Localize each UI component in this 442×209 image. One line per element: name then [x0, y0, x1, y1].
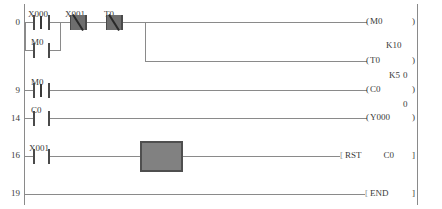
contact-bar-right: [48, 83, 50, 98]
rung9-wire-seg1: [25, 90, 33, 91]
step-number-9: 9: [2, 85, 20, 95]
rung0-wire-to-coil: [145, 22, 367, 23]
normally-closed-slash-icon: [107, 15, 122, 30]
contact-bar-right: [48, 111, 50, 126]
pulse-tick-icon: [40, 84, 42, 97]
contact-bar-right: [121, 15, 123, 30]
branch-vertical-right: [60, 22, 61, 50]
pulse-tick-icon: [40, 16, 42, 29]
coil-paren-open: (: [366, 112, 369, 122]
coil-y000-label: Y000: [370, 112, 390, 122]
contact-bar-right: [48, 43, 50, 58]
coil-m0-label: M0: [370, 16, 383, 26]
branch-vertical-left: [25, 22, 26, 50]
coil-paren-open: (: [366, 55, 369, 65]
instruction-rst-label: RST: [345, 150, 362, 160]
rung16-wire-seg2: [50, 156, 340, 157]
rung19-wire: [25, 194, 365, 195]
instruction-rst-operand: C0: [384, 150, 395, 160]
instruction-rst[interactable]: [RSTC0: [340, 150, 394, 161]
rung0-wire-seg3: [87, 22, 106, 23]
coil-y000[interactable]: (Y000: [366, 112, 390, 123]
rung9-wire-seg2: [50, 90, 367, 91]
t0-branch-wire: [145, 61, 367, 62]
contact-m0-rung9[interactable]: [33, 83, 50, 98]
step-number-14: 14: [2, 113, 20, 123]
contact-x001-rung16[interactable]: [33, 149, 50, 164]
counter-current-c0: 0: [403, 99, 408, 109]
rung14-wire-seg1: [25, 118, 33, 119]
contact-bar-left: [33, 15, 35, 30]
rung0-wire-seg4: [123, 22, 145, 23]
contact-bar-left: [33, 149, 35, 164]
coil-c0-paren-close: ): [412, 84, 415, 95]
contact-t0[interactable]: [106, 15, 123, 30]
instruction-end[interactable]: [END: [365, 188, 389, 199]
timer-current-t0: 0: [403, 70, 408, 80]
t0-branch-vertical: [145, 22, 146, 61]
coil-paren-open: (: [366, 84, 369, 94]
coil-t0-label: T0: [370, 55, 380, 65]
rung16-wire-seg1: [25, 156, 33, 157]
contact-bar-left: [33, 111, 35, 126]
branch-wire-seg2: [50, 50, 61, 51]
coil-m0[interactable]: (M0: [366, 16, 383, 27]
selection-cursor-block[interactable]: [140, 141, 183, 172]
rung14-wire-seg2: [50, 118, 367, 119]
instruction-end-bracket-close: ]: [412, 188, 415, 199]
step-number-19: 19: [2, 188, 20, 198]
contact-bar-right: [48, 149, 50, 164]
instruction-end-label: END: [370, 188, 389, 198]
branch-wire-seg1: [25, 50, 33, 51]
step-number-0: 0: [2, 17, 20, 27]
counter-preset-c0: K5: [389, 70, 400, 80]
coil-t0[interactable]: (T0: [366, 55, 380, 66]
ladder-diagram-canvas: 0 9 14 16 19 X000 X001 T0 M0: [0, 0, 442, 209]
coil-t0-paren-close: ): [412, 55, 415, 66]
coil-y000-paren-close: ): [412, 112, 415, 123]
rung0-wire-seg1: [25, 22, 33, 23]
instruction-rst-bracket-close: ]: [412, 150, 415, 161]
contact-m0-branch[interactable]: [33, 43, 50, 58]
contact-bar-right: [85, 15, 87, 30]
contact-x001-rung0[interactable]: [70, 15, 87, 30]
contact-bar-left: [33, 83, 35, 98]
timer-preset-t0: K10: [386, 40, 402, 50]
coil-c0-label: C0: [370, 84, 381, 94]
coil-paren-open: (: [366, 16, 369, 26]
power-rail-right: [417, 4, 418, 205]
normally-closed-slash-icon: [71, 15, 86, 30]
contact-bar-right: [48, 15, 50, 30]
contact-x000[interactable]: [33, 15, 50, 30]
coil-m0-paren-close: ): [412, 16, 415, 27]
contact-c0-rung14[interactable]: [33, 111, 50, 126]
step-number-16: 16: [2, 150, 20, 160]
contact-bar-left: [33, 43, 35, 58]
coil-c0[interactable]: (C0: [366, 84, 381, 95]
